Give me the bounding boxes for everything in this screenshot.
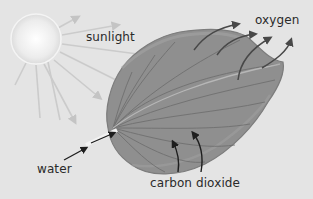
- water-arrow: [64, 130, 117, 160]
- oxygen-label: oxygen: [255, 14, 299, 26]
- water-label: water: [37, 163, 72, 175]
- sun-icon: [11, 14, 61, 64]
- sunlight-label: sunlight: [86, 31, 135, 43]
- photosynthesis-diagram: sunlight oxygen water carbon dioxide: [0, 0, 313, 199]
- carbon-dioxide-label: carbon dioxide: [150, 177, 240, 189]
- leaf: [107, 29, 284, 173]
